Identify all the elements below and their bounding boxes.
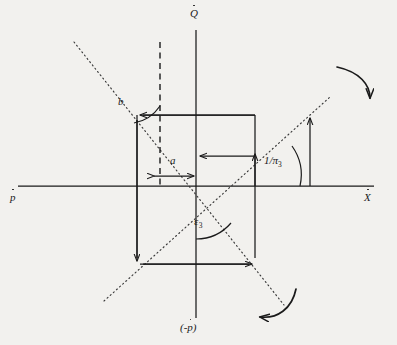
length-label-a: a xyxy=(170,155,176,166)
axis-label-qdot: Q xyxy=(190,8,198,19)
angle-arc-pi3 xyxy=(292,146,301,186)
dotted-line-shallow xyxy=(104,97,330,301)
diagram-page: Q p X (-p) b a 1/π3 ε3 xyxy=(0,0,397,345)
dotted-line-steep xyxy=(74,42,284,305)
rotation-arrow-top-right xyxy=(337,67,370,98)
angle-label-b: b xyxy=(118,96,124,107)
axis-label-xdot: X xyxy=(364,192,371,203)
vector-diagram xyxy=(0,0,397,345)
axis-label-pdot: p xyxy=(10,192,16,203)
axis-label-negative-pdot: (-p) xyxy=(180,322,197,333)
magnitude-label-one-over-pi3: 1/π3 xyxy=(264,155,282,169)
rotation-arrow-bottom-right xyxy=(260,289,296,317)
angle-label-epsilon3: ε3 xyxy=(194,216,202,230)
